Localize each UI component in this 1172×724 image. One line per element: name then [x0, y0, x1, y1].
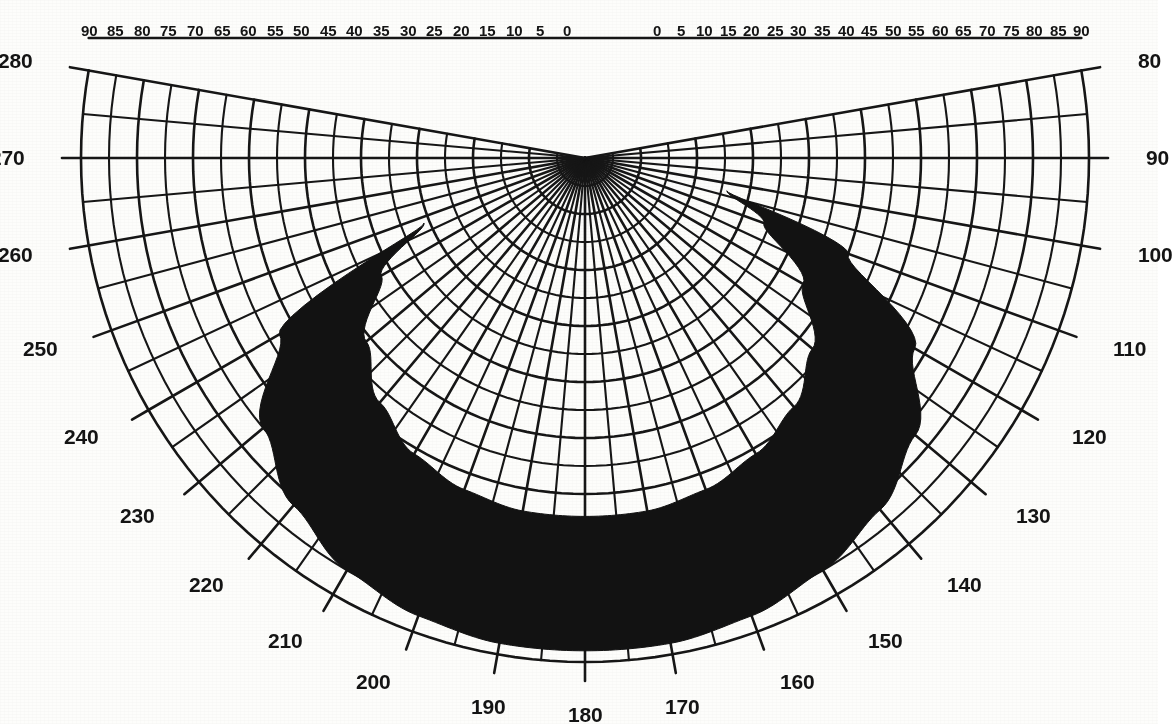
- altitude-tick-label-left: 20: [453, 22, 469, 39]
- azimuth-spoke: [585, 70, 1081, 158]
- azimuth-tick-label: 190: [471, 695, 505, 719]
- altitude-tick-label-right: 0: [653, 22, 661, 39]
- azimuth-tick-label: 230: [120, 504, 154, 528]
- azimuth-tick-label: 270: [0, 146, 24, 170]
- altitude-tick-label-right: 10: [696, 22, 712, 39]
- azimuth-tick: [184, 482, 199, 494]
- azimuth-tick-label: 170: [665, 695, 699, 719]
- altitude-tick-label-right: 40: [838, 22, 854, 39]
- altitude-tick-label-right: 85: [1050, 22, 1066, 39]
- azimuth-tick-label: 160: [780, 670, 814, 694]
- azimuth-tick-label: 260: [0, 243, 32, 267]
- azimuth-tick: [757, 632, 764, 650]
- azimuth-tick: [94, 330, 112, 337]
- azimuth-tick-label: 250: [23, 337, 57, 361]
- azimuth-tick-label: 180: [568, 703, 602, 724]
- altitude-tick-label-left: 75: [160, 22, 176, 39]
- azimuth-tick: [323, 594, 333, 610]
- altitude-tick-label-left: 40: [346, 22, 362, 39]
- altitude-tick-label-right: 80: [1026, 22, 1042, 39]
- altitude-tick-label-left: 30: [400, 22, 416, 39]
- azimuth-tick-label: 80: [1138, 49, 1161, 73]
- azimuth-tick: [1081, 246, 1100, 249]
- azimuth-tick-label: 220: [189, 573, 223, 597]
- altitude-tick-label-right: 60: [932, 22, 948, 39]
- altitude-tick-label-left: 50: [293, 22, 309, 39]
- altitude-tick-label-right: 65: [955, 22, 971, 39]
- altitude-tick-label-right: 20: [743, 22, 759, 39]
- altitude-tick-label-right: 75: [1003, 22, 1019, 39]
- azimuth-tick: [1021, 410, 1037, 420]
- azimuth-tick: [70, 67, 89, 70]
- azimuth-tick: [249, 544, 261, 559]
- altitude-tick-label-left: 0: [563, 22, 571, 39]
- altitude-tick-label-right: 45: [861, 22, 877, 39]
- azimuth-tick-label: 200: [356, 670, 390, 694]
- azimuth-tick: [837, 594, 847, 610]
- azimuth-tick: [132, 410, 148, 420]
- altitude-tick-label-right: 25: [767, 22, 783, 39]
- azimuth-tick: [673, 654, 676, 673]
- altitude-tick-label-left: 65: [214, 22, 230, 39]
- azimuth-tick-label: 240: [64, 425, 98, 449]
- azimuth-spoke: [89, 70, 585, 158]
- azimuth-tick-label: 90: [1146, 146, 1169, 170]
- shading-mask-region: [260, 191, 921, 651]
- shading-mask-group: [260, 191, 921, 651]
- azimuth-tick: [494, 654, 497, 673]
- azimuth-tick-label: 140: [947, 573, 981, 597]
- altitude-tick-label-left: 70: [187, 22, 203, 39]
- azimuth-tick-label: 280: [0, 49, 32, 73]
- altitude-tick-label-left: 55: [267, 22, 283, 39]
- altitude-tick-label-left: 85: [107, 22, 123, 39]
- azimuth-tick-label: 100: [1138, 243, 1172, 267]
- azimuth-tick: [70, 246, 89, 249]
- altitude-tick-label-left: 45: [320, 22, 336, 39]
- altitude-tick-label-right: 90: [1073, 22, 1089, 39]
- altitude-tick-label-right: 35: [814, 22, 830, 39]
- altitude-tick-label-right: 30: [790, 22, 806, 39]
- azimuth-tick: [1059, 330, 1077, 337]
- azimuth-tick-label: 130: [1016, 504, 1050, 528]
- azimuth-tick: [971, 482, 986, 494]
- altitude-tick-label-left: 5: [536, 22, 544, 39]
- altitude-tick-label-left: 35: [373, 22, 389, 39]
- azimuth-tick-label: 120: [1072, 425, 1106, 449]
- altitude-tick-label-left: 80: [134, 22, 150, 39]
- azimuth-tick-label: 210: [268, 629, 302, 653]
- altitude-tick-label-left: 10: [506, 22, 522, 39]
- altitude-tick-label-right: 70: [979, 22, 995, 39]
- altitude-tick-label-left: 15: [479, 22, 495, 39]
- altitude-tick-label-right: 5: [677, 22, 685, 39]
- altitude-tick-label-right: 50: [885, 22, 901, 39]
- azimuth-tick-label: 150: [868, 629, 902, 653]
- altitude-tick-label-left: 25: [426, 22, 442, 39]
- azimuth-tick-label: 110: [1113, 337, 1146, 361]
- azimuth-tick: [1081, 67, 1100, 70]
- azimuth-tick: [406, 632, 413, 650]
- altitude-tick-label-right: 55: [908, 22, 924, 39]
- azimuth-tick: [909, 544, 921, 559]
- altitude-tick-label-left: 60: [240, 22, 256, 39]
- altitude-tick-label-right: 15: [720, 22, 736, 39]
- altitude-tick-label-left: 90: [81, 22, 97, 39]
